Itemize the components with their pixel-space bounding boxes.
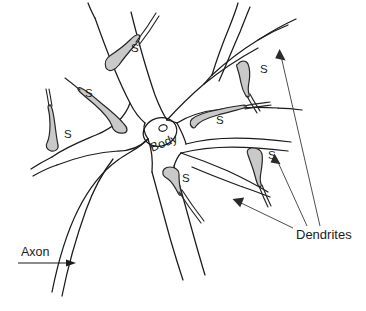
synapse-far-left-stalk-b [49,89,52,106]
synapse-label-upper-right: S [260,63,268,75]
axon-label: Axon [21,245,50,259]
dendrite-upper-left-edge-b [131,12,167,120]
synapse-upper-right-stalk-b [250,94,260,111]
dendrite-far-right-mid [278,108,302,110]
figure-root: S S S S S S S Body Axon Dendr [0,0,366,311]
synapse-upper-left-stalk [65,78,80,90]
dendrite-leader-line-2 [277,160,307,226]
synapse-top-left-stalk [136,13,156,42]
synapse-far-left [46,89,58,151]
synapse-mid-right [190,102,271,128]
dendrite-leader-arrow-3-icon [233,197,245,207]
synapse-far-left-bouton [46,105,58,151]
synapse-bottom-bouton [163,167,181,195]
soma-right-pocket [177,123,186,144]
synapse-upper-left [65,78,127,133]
dendrite-leader-line-3 [239,202,293,228]
synapse-bottom-stalk [179,192,201,223]
nucleolus [158,124,168,133]
dendrite-left-lower-edge [57,139,148,165]
dendrite-outer-upper-left-a [88,3,95,18]
dendrites-label: Dendrites [296,227,352,242]
synapse-label-far-left: S [64,128,72,140]
neuron-diagram: S S S S S S S Body Axon Dendr [0,0,366,311]
synapse-top-left-stalk-b [139,16,159,45]
dendrite-far-right-upper [258,25,288,40]
dendrite-far-left-a [31,157,52,169]
axon-annotation-group: Axon [18,245,76,267]
synapse-far-left-stalk [46,89,49,106]
neuron-outline-group [31,3,302,296]
dendrite-far-left-b [33,165,57,176]
dendrites-annotation-group: Dendrites [233,49,353,242]
synapse-label-mid-right: S [216,114,224,126]
axon-arrow-head-icon [66,259,76,266]
dendrite-mid-right-edge-b [186,138,291,144]
dendrite-leader-arrow-1-icon [275,49,285,61]
cell-body-label: Body [148,131,180,155]
synapse-label-bottom: S [182,172,190,184]
synapse-upper-right-bouton [237,61,250,97]
dendrite-upper-right-joint [204,75,212,84]
dendrite-bottom-hook [174,153,181,166]
synapse-label-upper-left: S [85,87,93,99]
synapse-label-top-left: S [131,42,139,54]
